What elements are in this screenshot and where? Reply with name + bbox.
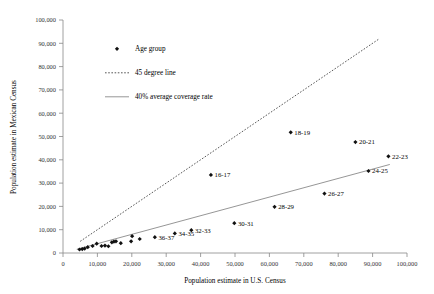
data-point-marker xyxy=(353,140,357,144)
data-point-label: 26-27 xyxy=(328,190,344,197)
scatter-chart-figure: 010,00020,00030,00040,00050,00060,00070,… xyxy=(0,0,434,294)
data-point-label: 34-35 xyxy=(178,230,194,237)
reference-line xyxy=(77,164,390,249)
reference-lines xyxy=(77,39,390,250)
y-tick-label: 50,000 xyxy=(38,133,56,140)
legend-label: Age group xyxy=(135,45,166,53)
data-point-marker xyxy=(289,130,293,134)
data-point-marker xyxy=(103,243,107,247)
data-point-label: 32-33 xyxy=(195,227,211,234)
x-tick-label: 0 xyxy=(61,260,64,267)
x-tick-label: 30,000 xyxy=(157,260,175,267)
data-point-marker xyxy=(272,205,276,209)
legend-label: 40% average coverage rate xyxy=(135,93,213,101)
data-point-marker xyxy=(99,244,103,248)
chart-legend: Age group45 degree line40% average cover… xyxy=(105,45,213,101)
legend-marker-diamond xyxy=(115,47,119,51)
data-point-label: 20-21 xyxy=(359,138,375,145)
y-tick-label: 60,000 xyxy=(38,110,56,117)
x-tick-label: 40,000 xyxy=(192,260,210,267)
chart-canvas: 010,00020,00030,00040,00050,00060,00070,… xyxy=(0,0,434,294)
data-point-marker xyxy=(322,191,326,195)
y-axis-ticks: 010,00020,00030,00040,00050,00060,00070,… xyxy=(35,16,63,256)
data-point-marker xyxy=(119,241,123,245)
y-tick-label: 100,000 xyxy=(35,16,56,23)
y-axis: 010,00020,00030,00040,00050,00060,00070,… xyxy=(10,16,63,256)
data-point-labels: 36-3734-3532-3330-3128-2926-2724-2522-23… xyxy=(158,129,408,241)
x-tick-label: 10,000 xyxy=(89,260,107,267)
x-axis: 010,00020,00030,00040,00050,00060,00070,… xyxy=(61,253,417,285)
y-tick-label: 20,000 xyxy=(38,203,56,210)
x-tick-label: 100,000 xyxy=(397,260,418,267)
y-tick-label: 0 xyxy=(53,249,56,256)
x-axis-title: Population estimate in U.S. Census xyxy=(184,277,286,285)
y-tick-label: 80,000 xyxy=(38,63,56,70)
data-point-marker xyxy=(95,242,99,246)
data-point-label: 22-23 xyxy=(392,153,408,160)
x-tick-label: 80,000 xyxy=(329,260,347,267)
data-point-marker xyxy=(106,244,110,248)
data-point-marker xyxy=(138,237,142,241)
data-point-label: 36-37 xyxy=(158,234,174,241)
data-point-label: 28-29 xyxy=(278,203,294,210)
x-axis-ticks: 010,00020,00030,00040,00050,00060,00070,… xyxy=(61,253,417,267)
y-tick-label: 40,000 xyxy=(38,156,56,163)
data-point-label: 24-25 xyxy=(372,167,388,174)
x-tick-label: 60,000 xyxy=(261,260,279,267)
data-point-label: 18-19 xyxy=(294,129,310,136)
data-point-marker xyxy=(209,173,213,177)
data-point-label: 16-17 xyxy=(215,171,231,178)
y-tick-label: 10,000 xyxy=(38,226,56,233)
y-tick-label: 30,000 xyxy=(38,179,56,186)
data-point-marker xyxy=(232,221,236,225)
y-axis-title: Population estimate in Mexican Census xyxy=(10,80,18,194)
data-point-marker xyxy=(386,154,390,158)
data-point-marker xyxy=(129,239,133,243)
legend-label: 45 degree line xyxy=(135,69,176,77)
x-tick-label: 70,000 xyxy=(295,260,313,267)
reference-line xyxy=(80,39,379,242)
y-tick-label: 70,000 xyxy=(38,86,56,93)
y-tick-label: 90,000 xyxy=(38,40,56,47)
data-point-label: 30-31 xyxy=(238,220,254,227)
x-tick-label: 50,000 xyxy=(226,260,244,267)
x-tick-label: 20,000 xyxy=(123,260,141,267)
x-tick-label: 90,000 xyxy=(364,260,382,267)
data-point-marker xyxy=(153,235,157,239)
